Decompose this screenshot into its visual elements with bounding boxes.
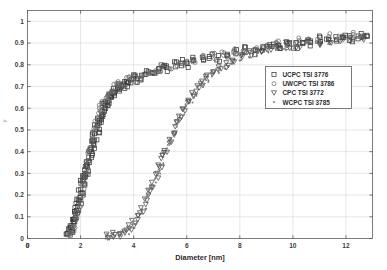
y-tick-label: 0.1 <box>15 213 24 220</box>
legend-label: WCPC TSI 3785 <box>283 99 331 106</box>
y-tick-label: 0.3 <box>15 170 24 177</box>
x-tick-label: 8 <box>238 242 242 249</box>
x-tick-label: 4 <box>132 242 136 249</box>
y-tick-label: 0.8 <box>15 61 24 68</box>
y-tick-label: 0.7 <box>15 83 24 90</box>
y-tick-label: 0.9 <box>15 39 24 46</box>
legend-label: UWCPC TSI 3786 <box>283 80 335 87</box>
scatter-plot-figure: 02468101200.10.20.30.40.50.60.70.80.910D… <box>0 0 387 270</box>
x-origin-label: 0 <box>26 242 30 249</box>
x-axis-title: Diameter [nm] <box>175 253 225 262</box>
y-tick-label: 0.6 <box>15 105 24 112</box>
legend-label: CPC TSI 3772 <box>283 89 325 96</box>
y-axis-label: y <box>1 114 7 128</box>
legend-item-3[interactable]: WCPC TSI 3785 <box>273 99 330 106</box>
y-tick-label: 0.5 <box>15 126 24 133</box>
x-tick-label: 10 <box>289 242 297 249</box>
legend-label: UCPC TSI 3776 <box>283 71 329 78</box>
screenshot-root: 02468101200.10.20.30.40.50.60.70.80.910D… <box>0 0 387 270</box>
y-tick-label: 1 <box>20 18 24 25</box>
y-tick-label: 0.2 <box>15 191 24 198</box>
y-tick-label: 0.4 <box>15 148 24 155</box>
x-tick-label: 12 <box>342 242 350 249</box>
plot-canvas: 02468101200.10.20.30.40.50.60.70.80.910D… <box>0 0 387 270</box>
x-tick-label: 2 <box>79 242 83 249</box>
y-tick-label: 0 <box>20 235 24 242</box>
x-tick-label: 6 <box>185 242 189 249</box>
legend[interactable]: UCPC TSI 3776UWCPC TSI 3786CPC TSI 3772W… <box>266 67 352 109</box>
